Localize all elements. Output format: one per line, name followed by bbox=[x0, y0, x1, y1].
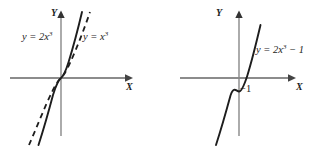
y-axis-right bbox=[235, 11, 242, 137]
curve-label-exponent: 3 bbox=[105, 30, 109, 38]
curve-label-tail: − 1 bbox=[286, 44, 304, 55]
x-axis-label-left: X bbox=[126, 82, 133, 92]
x-axis-left bbox=[10, 74, 133, 82]
math-figure-two-cubic-graphs: Y X y = 2x3 y = x3 Y X y = 2x3 − 1 −1 bbox=[0, 0, 324, 147]
curve-label-y-equals-2x-cubed: y = 2x3 bbox=[22, 32, 52, 43]
y-intercept-tick-label: −1 bbox=[240, 84, 251, 95]
curve-label-exponent: 3 bbox=[49, 30, 53, 38]
graph-panel-right: Y X y = 2x3 − 1 −1 bbox=[162, 0, 324, 147]
graph-panel-left: Y X y = 2x3 y = x3 bbox=[0, 0, 162, 147]
curve-label-y-equals-2x-cubed-minus-1: y = 2x3 − 1 bbox=[256, 45, 304, 56]
curve-label-base: y = 2x bbox=[256, 44, 283, 55]
graph-canvas-left bbox=[0, 0, 162, 147]
x-axis-right bbox=[180, 74, 296, 82]
curve-label-base: y = 2x bbox=[22, 31, 49, 42]
y-axis-label-left: Y bbox=[51, 8, 57, 18]
curve-label-y-equals-x-cubed: y = x3 bbox=[83, 32, 108, 43]
curve-y-equals-2x-cubed-minus-1 bbox=[216, 25, 261, 145]
graph-canvas-right bbox=[162, 0, 324, 147]
curve-label-base: y = x bbox=[83, 31, 105, 42]
x-axis-label-right: X bbox=[296, 82, 303, 92]
y-axis-label-right: Y bbox=[216, 8, 222, 18]
